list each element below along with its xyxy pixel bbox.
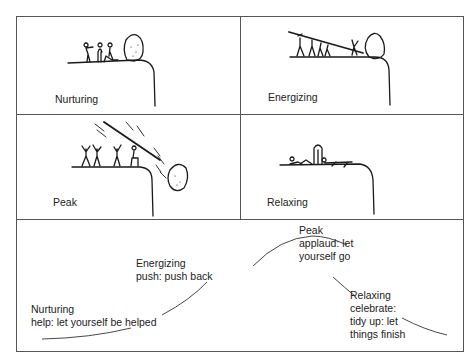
stage-nurturing-title: Nurturing: [31, 303, 157, 316]
stage-nurturing: Nurturing help: let yourself be helped: [31, 303, 157, 329]
stage-peak-desc-2: yourself go: [299, 250, 353, 263]
stage-peak: Peak applaud: let yourself go: [299, 224, 353, 263]
stage-relaxing-desc-2: tidy up: let: [350, 315, 405, 328]
panel-label-relaxing: Relaxing: [267, 196, 308, 209]
stage-relaxing-desc-1: celebrate:: [350, 302, 405, 315]
stage-nurturing-desc: help: let yourself be helped: [31, 316, 157, 329]
stage-relaxing-desc-3: things finish: [350, 328, 405, 341]
stage-energizing-title: Energizing: [136, 257, 212, 270]
panel-label-nurturing: Nurturing: [55, 93, 98, 106]
stage-relaxing: Relaxing celebrate: tidy up: let things …: [350, 289, 405, 341]
stage-peak-desc-1: applaud: let: [299, 237, 353, 250]
peak-illustration: [72, 122, 188, 216]
panel-label-peak: Peak: [53, 196, 77, 209]
stage-energizing: Energizing push: push back: [136, 257, 212, 283]
stage-energizing-desc: push: push back: [136, 270, 212, 283]
stage-peak-title: Peak: [299, 224, 353, 237]
panel-label-energizing: Energizing: [268, 91, 318, 104]
stage-relaxing-title: Relaxing: [350, 289, 405, 302]
